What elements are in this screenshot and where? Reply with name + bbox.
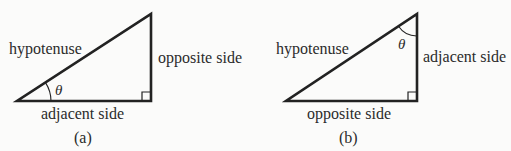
triangle-a [17,14,151,101]
theta-label-a: θ [55,82,62,98]
triangle-b [286,14,417,101]
hypotenuse-label-b: hypotenuse [276,41,349,57]
adjacent-side-label-b: adjacent side [423,49,506,65]
triangle-b-outline [286,14,417,101]
right-angle-marker-a [142,92,151,101]
triangle-a-outline [17,14,151,101]
adjacent-side-label-a: adjacent side [41,106,124,122]
caption-a: (a) [74,130,92,146]
caption-b: (b) [339,130,358,146]
hypotenuse-label-a: hypotenuse [9,41,82,57]
right-triangle-diagram: hypotenuse opposite side θ adjacent side… [0,0,511,151]
theta-label-b: θ [398,36,405,52]
right-angle-marker-b [408,92,417,101]
angle-arc-a [46,83,52,101]
opposite-side-label-a: opposite side [158,50,242,66]
opposite-side-label-b: opposite side [307,106,391,122]
angle-arc-b [399,26,418,36]
